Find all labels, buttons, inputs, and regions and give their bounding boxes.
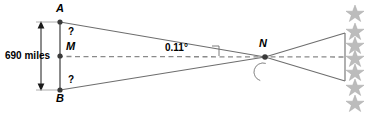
vertex-dots <box>57 19 267 92</box>
dot-a <box>57 19 62 24</box>
left-cone <box>60 22 265 90</box>
star-icon <box>346 79 364 96</box>
label-point-m: M <box>66 40 75 52</box>
label-angle-value: 0.11° <box>165 42 188 53</box>
label-point-n: N <box>259 37 267 49</box>
star-column <box>346 5 364 112</box>
dot-n <box>262 54 268 60</box>
segment-a-to-n <box>60 22 265 57</box>
center-axis-dashed-line <box>58 57 345 58</box>
label-unknown-angle-bottom: ? <box>68 74 74 85</box>
lunar-parallax-figure: A B M N ? ? 690 miles 0.11° <box>0 0 376 114</box>
segment-b-to-n <box>60 57 265 90</box>
label-point-a: A <box>56 2 64 14</box>
star-icon <box>346 64 364 81</box>
label-unknown-angle-top: ? <box>68 26 74 37</box>
segment-n-to-right-top <box>265 33 345 57</box>
segment-n-to-right-bottom <box>265 57 345 81</box>
crescent-moon-icon <box>252 61 266 81</box>
star-icon <box>346 95 364 112</box>
star-icon <box>346 5 364 22</box>
label-distance-690-miles: 690 miles <box>5 50 50 61</box>
dot-m <box>57 53 62 58</box>
right-angle-marker <box>212 46 219 56</box>
label-point-b: B <box>56 92 64 104</box>
